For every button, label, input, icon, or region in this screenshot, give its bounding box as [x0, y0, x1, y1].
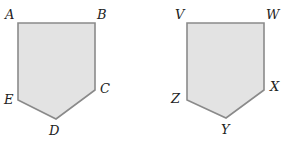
vertex-label-e: E	[3, 92, 14, 107]
pentagon-abcde	[18, 23, 95, 119]
vertex-label-v: V	[175, 7, 186, 22]
vertex-label-w: W	[266, 7, 281, 22]
vertex-label-b: B	[96, 7, 107, 22]
vertex-label-c: C	[100, 81, 110, 96]
vertex-label-x: X	[269, 79, 280, 94]
vertex-label-y: Y	[221, 122, 231, 137]
vertex-label-z: Z	[170, 91, 181, 106]
vertex-label-a: A	[4, 7, 14, 22]
pentagon-vwxyz	[187, 23, 264, 118]
diagram-canvas: ABCDEVWXYZ	[0, 0, 286, 146]
vertex-label-d: D	[48, 123, 60, 138]
